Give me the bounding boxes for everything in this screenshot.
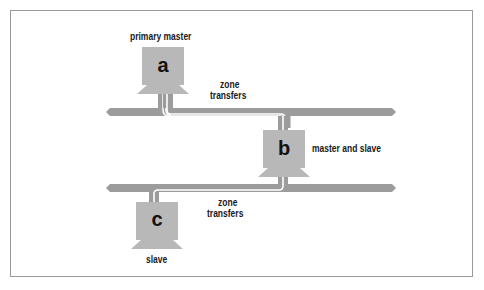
node-c-label: slave xyxy=(146,254,167,265)
edge-a-b-label-line1: zone xyxy=(220,79,239,90)
node-b-label: master and slave xyxy=(312,143,381,154)
edge-b-c-label-line1: zone xyxy=(218,197,237,208)
node-b-letter: b xyxy=(274,138,294,158)
network-diagram xyxy=(0,0,484,290)
edge-a-b-label-line2: transfers xyxy=(210,90,246,101)
node-c-letter: c xyxy=(147,209,167,229)
node-a-letter: a xyxy=(153,55,173,75)
edge-b-c-label-line2: transfers xyxy=(207,208,243,219)
node-a-label: primary master xyxy=(130,31,191,42)
